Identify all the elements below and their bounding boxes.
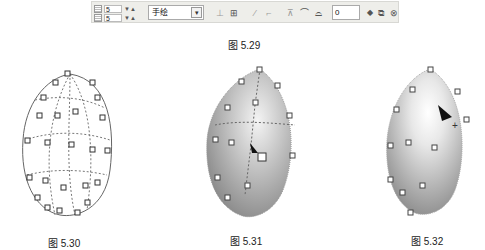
mode-select[interactable]: 手绘 ▾ [148,5,204,20]
grid-cols-icon [94,14,102,22]
spin-arrows-icon[interactable]: ▼▲ [124,6,136,12]
caption-fig-5-29: 图 5.29 [228,37,260,52]
line-icon[interactable]: ⁄ [249,7,261,19]
caption-fig-5-31: 图 5.31 [230,233,262,248]
symmetric-icon[interactable]: ⌓ [312,7,324,19]
copy-mesh-icon[interactable]: ⧉ [375,7,387,19]
crosshair-icon: + [452,120,458,131]
node-join-icon[interactable]: ⊞ [228,7,240,19]
rows-spinner[interactable]: 5 ▼▲ [94,4,136,13]
caption-fig-5-30: 图 5.30 [48,235,80,250]
segment-icon[interactable]: ⊼ [284,7,296,19]
mesh-wireframe-figure [15,70,125,220]
reset-mesh-icon[interactable]: ⊗ [388,7,400,19]
curve-icon[interactable]: ⌐ [263,7,275,19]
spin-arrows-icon[interactable]: ▼▲ [124,15,136,21]
cols-spinner[interactable]: 5 ▼▲ [94,13,136,22]
smooth-icon[interactable]: ⌒ [298,7,310,19]
mesh-shaded-figure [195,65,305,220]
chevron-down-icon[interactable]: ▾ [191,7,202,18]
caption-fig-5-32: 图 5.32 [411,233,443,248]
mesh-highlight-figure: + [380,65,470,220]
node-add-icon[interactable]: ⊥ [214,7,226,19]
mesh-cursor-icon [258,153,266,161]
transparency-field[interactable]: 0 ◆ [332,5,360,20]
slider-arrow-icon[interactable]: ◆ [367,6,373,19]
mesh-fill-toolbar: 5 ▼▲ 5 ▼▲ 手绘 ▾ ⊥ ⊞ ⁄ ⌐ ⊼ ⌒ ⌓ 0 ◆ ⧉ ⊗ [91,1,399,23]
grid-rows-icon [94,5,102,13]
